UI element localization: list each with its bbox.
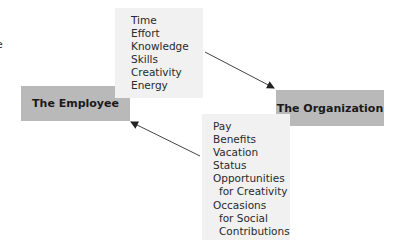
arrows-layer bbox=[0, 0, 401, 251]
arrow-employee-to-organization bbox=[205, 52, 274, 88]
arrow-organization-to-employee bbox=[131, 122, 200, 156]
